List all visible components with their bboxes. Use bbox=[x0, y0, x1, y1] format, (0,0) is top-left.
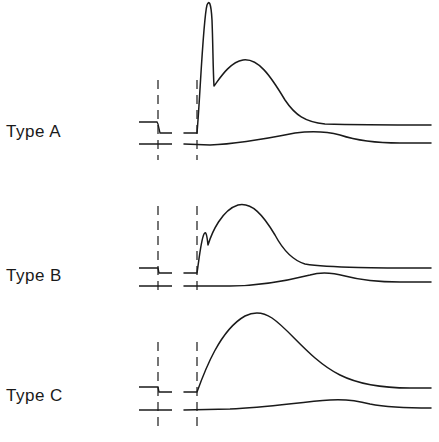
type-b-upper-waveform bbox=[184, 205, 431, 273]
type-a-upper-waveform bbox=[184, 3, 431, 133]
waveform-diagram bbox=[0, 0, 439, 442]
panel-type-b bbox=[139, 205, 431, 296]
type-c-upper-pre-segment bbox=[139, 387, 172, 392]
type-c-upper-waveform bbox=[184, 313, 431, 392]
type-b-upper-pre-segment bbox=[139, 268, 172, 273]
panel-type-c bbox=[139, 313, 431, 432]
type-b-lower-waveform bbox=[184, 273, 431, 286]
panel-type-a bbox=[139, 3, 431, 160]
type-c-lower-waveform bbox=[184, 400, 431, 410]
type-a-upper-pre-segment bbox=[139, 122, 172, 133]
type-a-lower-waveform bbox=[184, 132, 431, 145]
